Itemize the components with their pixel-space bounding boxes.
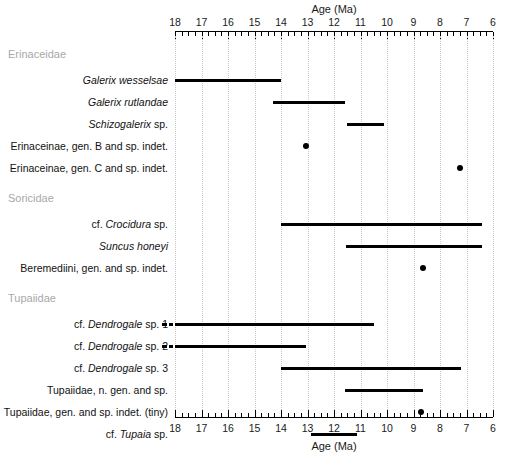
tick-label-top-13: 13: [296, 16, 320, 28]
tick-label-bottom-11: 11: [349, 422, 373, 434]
minor-tick-top: [268, 32, 269, 36]
minor-tick-bottom: [208, 413, 209, 417]
minor-tick-top: [182, 32, 183, 36]
tick-label-top-12: 12: [322, 16, 346, 28]
taxon-label: Erinaceinae, gen. C and sp. indet.: [10, 162, 168, 174]
minor-tick-bottom: [453, 413, 454, 417]
minor-tick-bottom: [294, 413, 295, 417]
minor-tick-bottom: [301, 413, 302, 417]
minor-tick-bottom: [288, 413, 289, 417]
tick-label-top-14: 14: [269, 16, 293, 28]
occurrence-point: [457, 165, 463, 171]
gridline-15: [255, 36, 257, 414]
minor-tick-bottom: [241, 413, 242, 417]
minor-tick-bottom: [327, 413, 328, 417]
tick-label-top-16: 16: [216, 16, 240, 28]
major-tick-bottom-16: [228, 410, 229, 417]
major-tick-bottom-7: [467, 410, 468, 417]
minor-tick-top: [248, 32, 249, 36]
axis-title-top: Age (Ma): [175, 3, 493, 15]
tick-label-bottom-13: 13: [296, 422, 320, 434]
minor-tick-top: [188, 32, 189, 36]
taxon-label: cf. Tupaia sp.: [106, 428, 168, 440]
tick-label-top-10: 10: [375, 16, 399, 28]
taxon-label: cf. Dendrogale sp. 3: [74, 362, 168, 374]
tick-label-bottom-18: 18: [163, 422, 187, 434]
minor-tick-bottom: [473, 413, 474, 417]
major-tick-bottom-13: [308, 410, 309, 417]
minor-tick-bottom: [341, 413, 342, 417]
minor-tick-top: [235, 32, 236, 36]
taxon-label: Schizogalerix sp.: [89, 118, 168, 130]
range-bar: [273, 101, 345, 104]
minor-tick-bottom: [354, 413, 355, 417]
gridline-16: [228, 36, 230, 414]
taxon-label: cf. Crocidura sp.: [92, 218, 168, 230]
range-dash-segment: [169, 345, 173, 348]
tick-label-top-7: 7: [455, 16, 479, 28]
minor-tick-bottom: [486, 413, 487, 417]
tick-label-top-8: 8: [428, 16, 452, 28]
taxon-label: cf. Dendrogale sp. 2: [74, 340, 168, 352]
minor-tick-bottom: [261, 413, 262, 417]
group-label-tupaiidae: Tupaiidae: [8, 292, 56, 304]
minor-tick-bottom: [188, 413, 189, 417]
taxon-label: Tupaiidae, n. gen. and sp.: [47, 384, 168, 396]
tick-label-bottom-17: 17: [190, 422, 214, 434]
minor-tick-top: [195, 32, 196, 36]
major-tick-bottom-17: [202, 410, 203, 417]
minor-tick-top: [453, 32, 454, 36]
minor-tick-top: [447, 32, 448, 36]
range-dash-segment: [169, 323, 173, 326]
taxon-label: Galerix wesselsae: [83, 74, 168, 86]
minor-tick-top: [394, 32, 395, 36]
minor-tick-top: [433, 32, 434, 36]
minor-tick-top: [473, 32, 474, 36]
major-tick-bottom-12: [334, 410, 335, 417]
minor-tick-top: [341, 32, 342, 36]
group-label-soricidae: Soricidae: [8, 192, 54, 204]
minor-tick-bottom: [274, 413, 275, 417]
range-bar: [345, 389, 423, 392]
occurrence-point: [420, 265, 426, 271]
range-bar: [347, 123, 384, 126]
minor-tick-bottom: [268, 413, 269, 417]
tick-label-top-18: 18: [163, 16, 187, 28]
minor-tick-bottom: [420, 413, 421, 417]
minor-tick-top: [274, 32, 275, 36]
major-tick-bottom-10: [387, 410, 388, 417]
range-bar: [346, 245, 482, 248]
minor-tick-bottom: [374, 413, 375, 417]
tick-label-top-9: 9: [402, 16, 426, 28]
minor-tick-top: [221, 32, 222, 36]
minor-tick-bottom: [314, 413, 315, 417]
minor-tick-top: [460, 32, 461, 36]
tick-label-top-6: 6: [481, 16, 505, 28]
minor-tick-bottom: [460, 413, 461, 417]
major-tick-bottom-15: [255, 410, 256, 417]
minor-tick-top: [407, 32, 408, 36]
gridline-18: [175, 36, 177, 414]
tick-label-top-17: 17: [190, 16, 214, 28]
tick-label-bottom-14: 14: [269, 422, 293, 434]
major-tick-bottom-6: [493, 410, 494, 417]
minor-tick-top: [294, 32, 295, 36]
minor-tick-bottom: [394, 413, 395, 417]
range-bar: [175, 79, 281, 82]
taxon-label: Beremediini, gen. and sp. indet.: [20, 262, 168, 274]
minor-tick-bottom: [367, 413, 368, 417]
tick-label-bottom-8: 8: [428, 422, 452, 434]
minor-tick-top: [486, 32, 487, 36]
gridline-6: [493, 36, 495, 414]
minor-tick-top: [480, 32, 481, 36]
minor-tick-bottom: [248, 413, 249, 417]
minor-tick-top: [420, 32, 421, 36]
minor-tick-top: [400, 32, 401, 36]
range-bar: [175, 345, 306, 348]
range-bar: [281, 223, 482, 226]
minor-tick-top: [380, 32, 381, 36]
minor-tick-bottom: [447, 413, 448, 417]
minor-tick-bottom: [321, 413, 322, 417]
taxon-label: Galerix rutlandae: [88, 96, 168, 108]
range-bar: [281, 367, 461, 370]
